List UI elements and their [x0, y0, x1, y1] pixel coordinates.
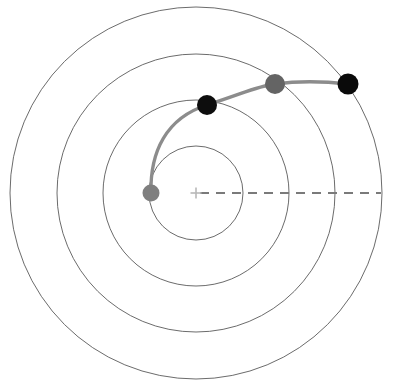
orbit-trajectory-diagram	[0, 0, 395, 383]
start-point-marker	[143, 185, 160, 202]
canvas-background	[0, 0, 395, 383]
orbit-diagram-canvas	[0, 0, 395, 383]
waypoint-2-marker	[265, 74, 285, 94]
end-point-marker	[338, 74, 359, 95]
waypoint-1-marker	[197, 95, 217, 115]
